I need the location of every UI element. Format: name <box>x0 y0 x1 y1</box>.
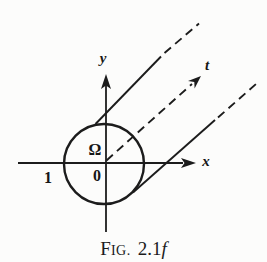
y-axis-label: y <box>98 50 107 66</box>
t-arrowhead <box>188 76 201 88</box>
diagram-canvas: y x t Ω 0 1 <box>0 0 267 262</box>
caption-number: 2.1 <box>138 238 162 259</box>
caption-suffix: f <box>161 238 166 259</box>
upper-boundary-line-dashed <box>165 24 200 54</box>
t-direction-label: t <box>205 57 210 73</box>
x-axis-arrowhead <box>181 158 196 168</box>
lower-boundary-line-dashed <box>218 84 256 118</box>
t-direction-dashed-line <box>107 84 193 161</box>
figure-caption: FIG.2.1f <box>0 238 267 260</box>
caption-small-caps: IG. <box>111 243 131 258</box>
figure-2-1f: y x t Ω 0 1 FIG.2.1f <box>0 0 267 262</box>
x-axis-label: x <box>201 153 210 169</box>
unit-point-label: 1 <box>44 169 52 186</box>
omega-label: Ω <box>89 141 102 158</box>
omega-region-circle <box>64 124 144 204</box>
origin-label: 0 <box>93 167 101 184</box>
caption-head: F <box>100 238 111 259</box>
